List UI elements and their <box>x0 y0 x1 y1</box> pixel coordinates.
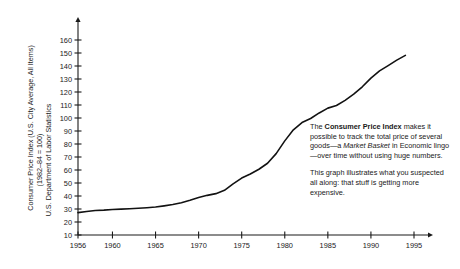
y-axis-title-line1: Consumer Price Index (U.S. City Average,… <box>26 45 35 211</box>
y-axis-tick-label: 80 <box>64 140 72 149</box>
annotation-paragraph-2: This graph illustrates what you suspecte… <box>310 168 450 197</box>
annotation-paragraph-1: The Consumer Price Index makes it possib… <box>310 122 450 160</box>
x-axis-tick-label: 1995 <box>406 241 422 250</box>
x-axis-tick-label: 1965 <box>147 241 163 250</box>
y-axis-tick-label: 20 <box>64 218 72 227</box>
y-axis-tick-label: 90 <box>64 127 72 136</box>
x-axis-tick-label: 1956 <box>70 241 86 250</box>
y-axis-tick-label: 110 <box>60 101 72 110</box>
y-axis-tick-label: 130 <box>60 75 72 84</box>
annotation-term-market-basket: Market Basket <box>343 141 390 150</box>
y-axis-tick-label: 50 <box>64 179 72 188</box>
y-axis-title-group: Consumer Price Index (U.S. City Average,… <box>26 45 53 216</box>
y-axis-tick-label: 30 <box>64 205 72 214</box>
y-axis-title-line2: (1982–84 = 100) <box>35 134 44 187</box>
annotation-term-cpi: Consumer Price Index <box>325 122 402 131</box>
x-axis-tick-label: 1980 <box>277 241 293 250</box>
x-axis-arrow <box>428 232 433 237</box>
y-axis-tick-label: 60 <box>64 166 72 175</box>
y-axis-tick-label: 70 <box>64 153 72 162</box>
y-axis-tick-label: 10 <box>64 231 72 240</box>
y-axis-tick-label: 140 <box>60 62 72 71</box>
y-axis-tick-label: 40 <box>64 192 72 201</box>
y-axis-title-line3: U.S. Department of Labor Statistics <box>44 103 53 216</box>
x-axis-tick-label: 1985 <box>320 241 336 250</box>
x-axis-tick-label: 1990 <box>363 241 379 250</box>
y-axis-arrow <box>75 17 80 22</box>
x-axis-tick-label: 1970 <box>190 241 206 250</box>
y-axis-tick-label: 160 <box>60 36 72 45</box>
x-axis-tick-label: 1960 <box>104 241 120 250</box>
annotation-text-part1: The <box>310 122 325 131</box>
x-axis-tick-label: 1975 <box>233 241 249 250</box>
annotation-block: The Consumer Price Index makes it possib… <box>310 122 450 197</box>
y-axis-tick-label: 150 <box>60 49 72 58</box>
y-axis-tick-label: 100 <box>60 114 72 123</box>
y-axis-tick-label: 120 <box>60 88 72 97</box>
